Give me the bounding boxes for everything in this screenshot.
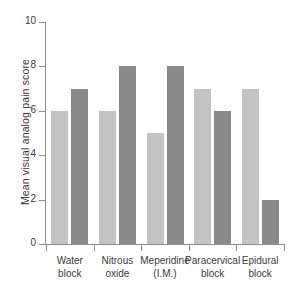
x-axis-line	[45, 244, 285, 245]
bar-dark-0	[71, 89, 88, 244]
x-axis-tick	[236, 245, 237, 251]
x-axis-category-label-line: block	[228, 268, 292, 281]
x-axis-category-label-line: Epidural	[228, 255, 292, 268]
x-axis-tick	[141, 245, 142, 251]
x-axis-category-label: Epiduralblock	[228, 255, 292, 280]
y-axis-tick-label: 6	[0, 104, 36, 115]
x-axis-tick	[284, 245, 285, 251]
bar-light-0	[51, 111, 68, 244]
plot-area	[46, 22, 284, 244]
y-axis-tick-label: 8	[0, 59, 36, 70]
y-axis-tick-label: 2	[0, 193, 36, 204]
bar-light-3	[194, 89, 211, 244]
bar-dark-4	[262, 200, 279, 244]
y-axis-tick-label: 4	[0, 148, 36, 159]
y-axis-tick	[39, 22, 45, 23]
y-axis-tick	[39, 244, 45, 245]
bar-dark-2	[167, 66, 184, 244]
y-axis-tick	[39, 66, 45, 67]
bar-dark-3	[214, 111, 231, 244]
y-axis-tick-label: 0	[0, 237, 36, 248]
bar-chart: Mean visual analog pain score 0246810 Wa…	[0, 0, 297, 289]
x-axis-tick	[46, 245, 47, 251]
y-axis-tick	[39, 155, 45, 156]
y-axis-tick	[39, 111, 45, 112]
y-axis-tick-label: 10	[0, 15, 36, 26]
bar-light-2	[147, 133, 164, 244]
x-axis-tick	[189, 245, 190, 251]
bar-dark-1	[119, 66, 136, 244]
y-axis-tick	[39, 200, 45, 201]
bar-light-1	[99, 111, 116, 244]
x-axis-tick	[94, 245, 95, 251]
bar-light-4	[242, 89, 259, 244]
